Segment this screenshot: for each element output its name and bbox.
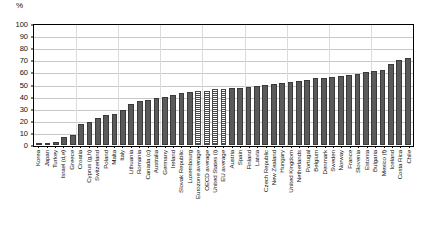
bar (321, 78, 327, 145)
x-label-slot: Denmark (320, 148, 328, 225)
bar-slot (395, 26, 403, 145)
bar (204, 91, 210, 145)
x-tick-mark (165, 146, 166, 148)
bar (170, 95, 176, 145)
x-tick-label: Australia (153, 150, 159, 173)
x-axis-labels: KoreaJapanTurkeyIsrael (d,e)GreeceCroati… (34, 148, 413, 225)
x-label-slot: OECD average (202, 148, 210, 225)
bar-slot (35, 26, 43, 145)
x-label-slot: Croatia (76, 148, 84, 225)
bar-slot (60, 26, 68, 145)
bar (162, 97, 168, 145)
bar (288, 82, 294, 145)
x-tick-label: Czech Republic (262, 150, 268, 192)
bar-slot (328, 26, 336, 145)
x-tick-label: Estonia (363, 150, 369, 170)
x-tick-label: France (347, 150, 353, 169)
bar (380, 70, 386, 145)
bar (53, 142, 59, 145)
x-tick-mark (358, 146, 359, 148)
bar-slot (228, 26, 236, 145)
x-tick-mark (291, 146, 292, 148)
bar (87, 122, 93, 145)
x-label-slot: Slovak Republic (177, 148, 185, 225)
x-tick-label: Israel (d,e) (60, 150, 66, 178)
bar (279, 83, 285, 145)
x-tick-mark (207, 146, 208, 148)
x-tick-mark (409, 146, 410, 148)
y-tick-label: 80 (20, 45, 28, 53)
bar (246, 87, 252, 145)
x-tick-label: Slovak Republic (178, 150, 184, 193)
x-label-slot: Eurozone average (194, 148, 202, 225)
x-tick-label: Mexico (f) (380, 150, 386, 176)
x-tick-mark (266, 146, 267, 148)
y-tick-label: 10 (20, 130, 28, 138)
bar-slot (353, 26, 361, 145)
bar-slot (52, 26, 60, 145)
x-tick-mark (384, 146, 385, 148)
x-tick-label: OECD average (203, 150, 209, 191)
x-label-slot: Lithuania (127, 148, 135, 225)
bar (70, 135, 76, 145)
bar (112, 114, 118, 145)
x-tick-label: Switzerland (94, 150, 100, 181)
bar-slot (236, 26, 244, 145)
bar (154, 98, 160, 145)
bar (237, 88, 243, 145)
x-tick-mark (257, 146, 258, 148)
x-tick-mark (350, 146, 351, 148)
x-tick-mark (367, 146, 368, 148)
y-tick-label: 40 (20, 94, 28, 102)
x-tick-label: Austria (229, 150, 235, 169)
bar (371, 71, 377, 145)
bar (187, 92, 193, 145)
x-tick-label: Chile (406, 150, 412, 164)
bar-slot (85, 26, 93, 145)
bar (262, 85, 268, 146)
x-label-slot: Netherlands (295, 148, 303, 225)
x-tick-mark (249, 146, 250, 148)
bar-slot (110, 26, 118, 145)
y-tick-label: 70 (20, 57, 28, 65)
y-tick-label: 20 (20, 118, 28, 126)
bar-slot (127, 26, 135, 145)
x-tick-mark (63, 146, 64, 148)
x-tick-label: Poland (102, 150, 108, 169)
x-tick-label: Denmark (321, 150, 327, 174)
x-tick-label: Iceland (389, 150, 395, 169)
bar (304, 80, 310, 145)
bar-slot (378, 26, 386, 145)
x-tick-label: United Kingdom (288, 150, 294, 193)
x-tick-label: Sweden (330, 150, 336, 172)
bar (338, 76, 344, 145)
x-label-slot: Estonia (362, 148, 370, 225)
x-tick-mark (181, 146, 182, 148)
x-tick-label: Germany (161, 150, 167, 175)
bar (78, 124, 84, 145)
bar (396, 60, 402, 145)
x-label-slot: Canada (c) (143, 148, 151, 225)
x-label-slot: Korea (34, 148, 42, 225)
bar-slot (102, 26, 110, 145)
bar (229, 88, 235, 145)
x-tick-label: Canada (c) (144, 150, 150, 180)
x-label-slot: Belgium (312, 148, 320, 225)
bar (36, 143, 42, 145)
x-label-slot: Italy (118, 148, 126, 225)
x-tick-mark (400, 146, 401, 148)
x-tick-mark (299, 146, 300, 148)
x-tick-mark (282, 146, 283, 148)
bar (120, 110, 126, 145)
x-tick-mark (333, 146, 334, 148)
x-tick-label: Ireland (170, 150, 176, 168)
bar (145, 100, 151, 145)
bar-series (35, 26, 412, 145)
chart-page: % 0102030405060708090100 KoreaJapanTurke… (0, 0, 422, 225)
bar-slot (203, 26, 211, 145)
x-tick-mark (106, 146, 107, 148)
x-label-slot: Cyprus (g,h) (85, 148, 93, 225)
bar-slot (278, 26, 286, 145)
bar-slot (253, 26, 261, 145)
x-tick-mark (215, 146, 216, 148)
